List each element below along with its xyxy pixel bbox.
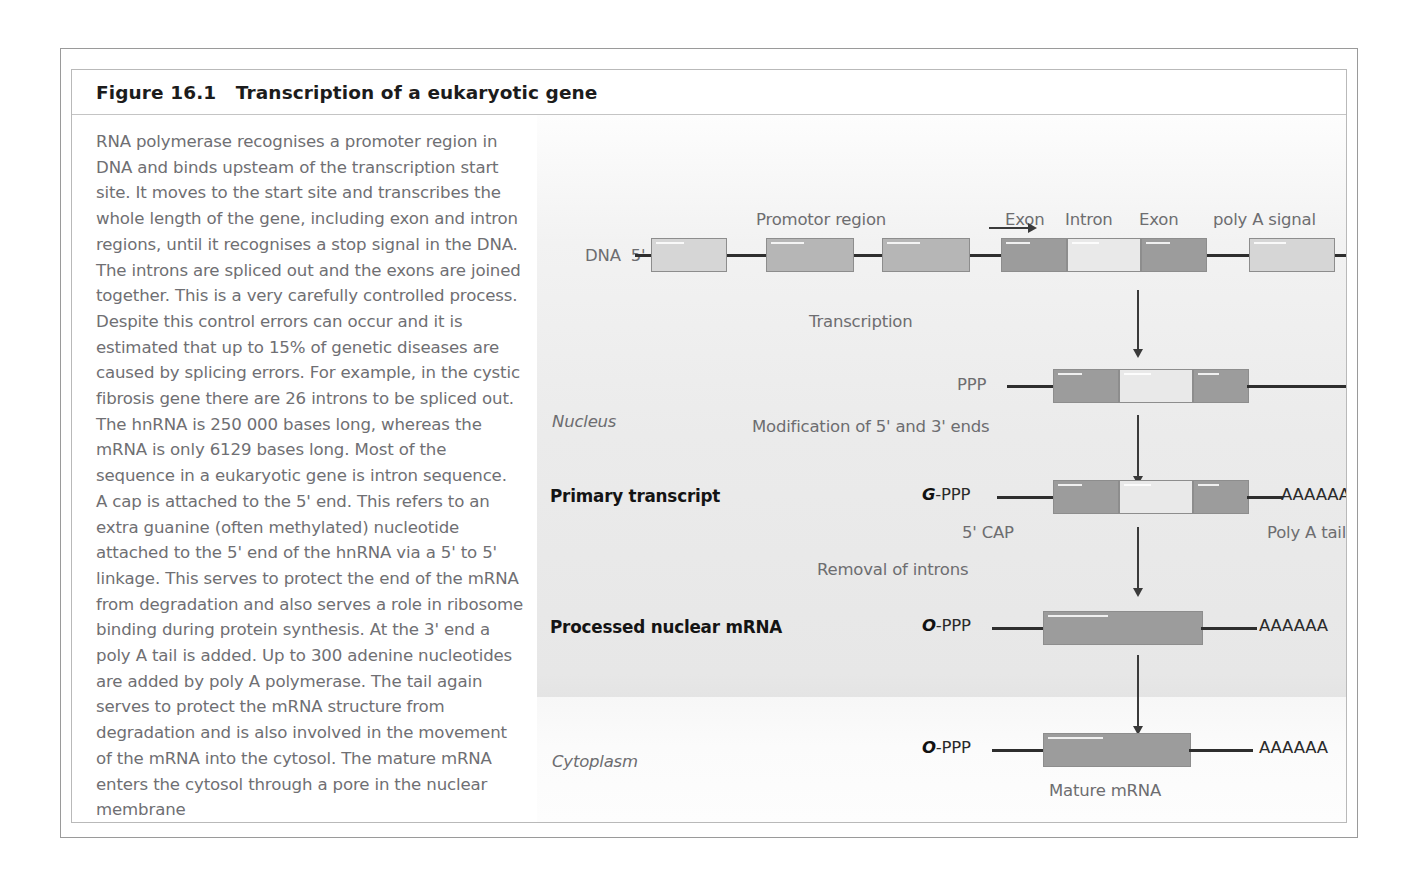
mature-polya-tail-text: AAAAAA xyxy=(1259,738,1328,757)
exon2-label: Exon xyxy=(1139,210,1178,229)
primary-transcript-row-label: Primary transcript xyxy=(550,486,720,506)
dna-intron-box xyxy=(1067,238,1141,272)
intron-label: Intron xyxy=(1065,210,1113,229)
processed-coding-box xyxy=(1043,611,1203,645)
figure-header: Figure 16.1 Transcription of a eukaryoti… xyxy=(72,70,1346,115)
caption-line: enters the cytosol through a pore in the… xyxy=(96,772,517,798)
primary-intron-box xyxy=(1119,480,1193,514)
primary-five-line xyxy=(997,496,1053,499)
transcription-start-arrow-icon xyxy=(989,227,1029,229)
caption-line: The hnRNA is 250 000 bases long, whereas… xyxy=(96,412,517,438)
dna-exon-box-1 xyxy=(1001,238,1067,272)
caption-line: together. This is a very carefully contr… xyxy=(96,283,517,309)
nucleus-region xyxy=(537,115,1346,697)
caption-line: degradation and is also involved in the … xyxy=(96,720,517,746)
cap-o-letter: O xyxy=(922,738,936,757)
dna-upstream-box xyxy=(651,238,727,272)
mature-mrna-caption: Mature mRNA xyxy=(1049,781,1161,800)
caption-line: whole length of the gene, including exon… xyxy=(96,206,517,232)
caption-column: RNA polymerase recognises a promoter reg… xyxy=(72,115,537,822)
caption-line: mRNA is only 6129 bases long. Most of th… xyxy=(96,437,517,463)
cap-ppp-text: -PPP xyxy=(935,485,970,504)
diagram-panel: Nucleus Cytoplasm DNA 5' Promotor region… xyxy=(537,115,1346,822)
transcription-step-label: Transcription xyxy=(809,312,913,331)
hnrna-three-line xyxy=(1247,385,1346,388)
processed-three-line xyxy=(1201,627,1257,630)
cytoplasm-label: Cytoplasm xyxy=(552,752,638,771)
nucleus-label: Nucleus xyxy=(552,412,616,431)
mature-five-line xyxy=(992,749,1045,752)
mature-cap-label: O-PPP xyxy=(922,738,971,757)
caption-line: Despite this control errors can occur an… xyxy=(96,309,517,335)
caption-line: are added by poly A polymerase. The tail… xyxy=(96,669,517,695)
caption-line: serves to protect the mRNA structure fro… xyxy=(96,694,517,720)
caption-line: The introns are spliced out and the exon… xyxy=(96,258,517,284)
modification-step-label: Modification of 5' and 3' ends xyxy=(752,417,990,436)
caption-line: A cap is attached to the 5' end. This re… xyxy=(96,489,517,515)
caption-line: extra guanine (often methylated) nucleot… xyxy=(96,515,517,541)
caption-line: fibrosis gene there are 26 introns to be… xyxy=(96,386,517,412)
processed-cap-label: O-PPP xyxy=(922,616,971,635)
hnrna-exon-box-1 xyxy=(1053,369,1119,403)
arrow-transcription-icon xyxy=(1137,290,1139,350)
primary-exon-box-1 xyxy=(1053,480,1119,514)
caption-line: caused by splicing errors. For example, … xyxy=(96,360,517,386)
dna-downstream-line xyxy=(1335,254,1346,257)
figure-outer-frame: Figure 16.1 Transcription of a eukaryoti… xyxy=(60,48,1358,838)
removal-step-label: Removal of introns xyxy=(817,560,968,579)
hnrna-five-line xyxy=(1007,385,1057,388)
caption-line: poly A tail is added. Up to 300 adenine … xyxy=(96,643,517,669)
primary-transcript-cap-label: G-PPP xyxy=(922,485,970,504)
hnrna-exon-box-2 xyxy=(1193,369,1249,403)
cap-g-letter: G xyxy=(922,485,935,504)
dna-polya-signal-box xyxy=(1249,238,1335,272)
dna-promoter-box-1 xyxy=(766,238,854,272)
promoter-region-label: Promotor region xyxy=(756,210,886,229)
hnrna-intron-box xyxy=(1119,369,1193,403)
mature-three-line xyxy=(1189,749,1253,752)
caption-line: regions, until it recognises a stop sign… xyxy=(96,232,517,258)
poly-a-tail-note-label: Poly A tail xyxy=(1267,523,1346,542)
arrow-export-icon xyxy=(1137,655,1139,727)
primary-three-line xyxy=(1247,496,1283,499)
figure-card: Figure 16.1 Transcription of a eukaryoti… xyxy=(71,69,1347,823)
processed-nuclear-mrna-row-label: Processed nuclear mRNA xyxy=(550,617,782,637)
caption-line: from degradation and also serves a role … xyxy=(96,592,517,618)
cap-ppp-text: -PPP xyxy=(936,616,971,635)
caption-line: membrane xyxy=(96,797,517,823)
mature-coding-box xyxy=(1043,733,1191,767)
caption-line: sequence in a eukaryotic gene is intron … xyxy=(96,463,517,489)
polya-signal-label: poly A signal xyxy=(1213,210,1316,229)
caption-line: DNA and binds upsteam of the transcripti… xyxy=(96,155,517,181)
cytoplasm-region xyxy=(537,697,1346,822)
cap-o-letter: O xyxy=(922,616,936,635)
primary-polya-tail-text: AAAAAA xyxy=(1281,485,1346,504)
dna-promoter-box-2 xyxy=(882,238,970,272)
caption-line: linkage. This serves to protect the end … xyxy=(96,566,517,592)
five-cap-note-label: 5' CAP xyxy=(962,523,1014,542)
hnrna-five-prime-label: PPP xyxy=(957,375,986,394)
arrow-modification-icon xyxy=(1137,415,1139,477)
caption-line: attached to the 5' end of the hnRNA via … xyxy=(96,540,517,566)
arrow-removal-icon xyxy=(1137,527,1139,589)
caption-line: RNA polymerase recognises a promoter reg… xyxy=(96,129,517,155)
caption-line: binding during protein synthesis. At the… xyxy=(96,617,517,643)
page-title: Figure 16.1 Transcription of a eukaryoti… xyxy=(72,82,597,103)
cap-ppp-text: -PPP xyxy=(936,738,971,757)
processed-five-line xyxy=(992,627,1045,630)
dna-backbone-line xyxy=(635,254,1335,257)
caption-line: site. It moves to the start site and tra… xyxy=(96,180,517,206)
caption-line: of the mRNA into the cytosol. The mature… xyxy=(96,746,517,772)
caption-line: estimated that up to 15% of genetic dise… xyxy=(96,335,517,361)
primary-exon-box-2 xyxy=(1193,480,1249,514)
processed-polya-tail-text: AAAAAA xyxy=(1259,616,1328,635)
dna-exon-box-2 xyxy=(1141,238,1207,272)
